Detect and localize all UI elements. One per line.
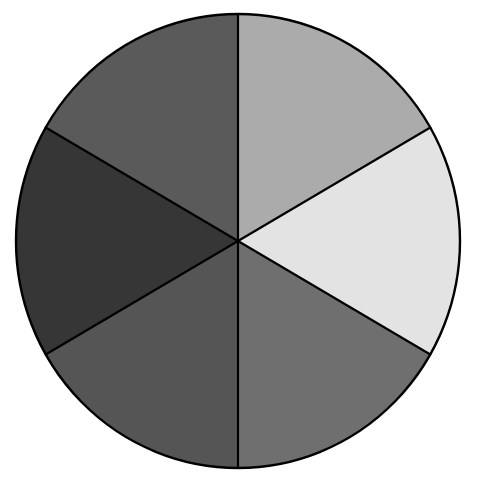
diagram-canvas (0, 0, 478, 485)
segmented-circle (0, 0, 478, 485)
